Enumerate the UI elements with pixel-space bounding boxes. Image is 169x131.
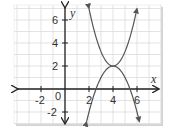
- y-tick-label-2: 2: [52, 60, 58, 72]
- y-tick-label-4: 4: [52, 37, 58, 49]
- y-tick-label-6: 6: [52, 14, 58, 26]
- x-tick-label-2: 2: [86, 94, 92, 106]
- y-axis-label: y: [69, 6, 76, 20]
- coordinate-graph: y x 0 -2 2 4 6 6 4 2 -2: [0, 0, 169, 131]
- origin-label: 0: [55, 90, 61, 102]
- y-tick-label-neg2: -2: [47, 106, 57, 118]
- x-tick-label-4: 4: [110, 94, 116, 106]
- grid-panel: [14, 5, 161, 124]
- x-axis-label: x: [150, 72, 157, 86]
- x-tick-label-neg2: -2: [35, 94, 45, 106]
- x-tick-label-6: 6: [134, 94, 140, 106]
